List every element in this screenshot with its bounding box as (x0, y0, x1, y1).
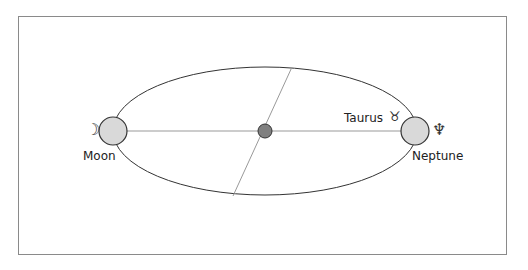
neptune-symbol-icon: ♆ (432, 122, 446, 138)
moon-symbol-icon: ☽ (86, 122, 100, 138)
moon-body (99, 117, 127, 145)
taurus-symbol-icon: ♉ (389, 110, 401, 123)
neptune-label: Neptune (412, 150, 463, 162)
neptune-body (401, 117, 429, 145)
moon-label: Moon (83, 150, 116, 162)
orbit-diagram (0, 0, 528, 270)
center-body (258, 124, 272, 138)
taurus-label: Taurus (344, 112, 383, 124)
